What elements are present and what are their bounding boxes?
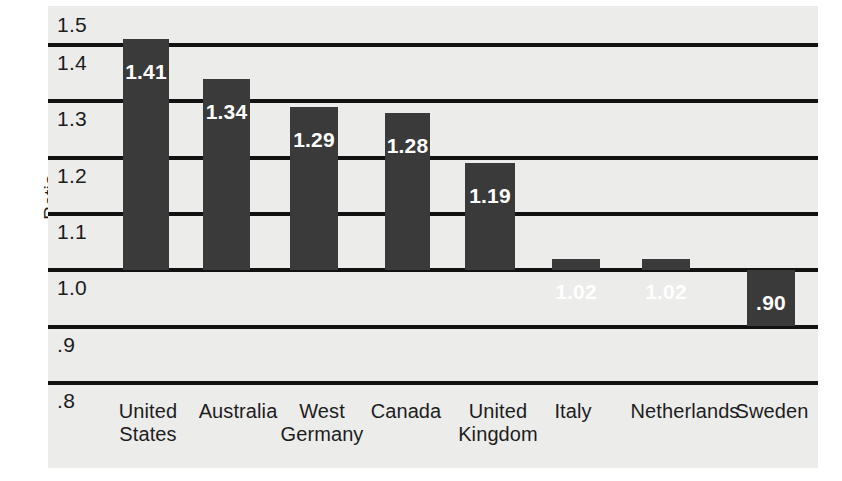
y-tick-label: 1.1 xyxy=(57,221,87,242)
bar-italy xyxy=(552,259,600,270)
bar-value-label: 1.29 xyxy=(290,129,338,150)
y-tick-label: .9 xyxy=(57,334,75,355)
category-label-italy: Italy xyxy=(538,400,608,423)
bar-value-label: 1.19 xyxy=(465,185,515,206)
y-tick-label: 1.5 xyxy=(57,14,87,35)
y-tick-label: 1.4 xyxy=(57,52,87,73)
y-tick-label: .8 xyxy=(57,390,75,411)
bar-value-label: 1.02 xyxy=(552,281,600,302)
category-label-sweden: Sweden xyxy=(726,400,818,423)
bar-value-label: 1.41 xyxy=(123,61,169,82)
y-tick-label: 1.3 xyxy=(57,108,87,129)
gridline-.9 xyxy=(48,325,818,329)
category-label-united-kingdom: United Kingdom xyxy=(448,400,548,446)
category-label-canada: Canada xyxy=(358,400,454,423)
bar-value-label: 1.02 xyxy=(642,281,690,302)
y-tick-label: 1.2 xyxy=(57,165,87,186)
bar-chart: Ratio 1.51.41.31.21.11.0.9.8 1.411.341.2… xyxy=(0,0,842,481)
bar-value-label: 1.34 xyxy=(203,101,250,122)
bar-value-label: .90 xyxy=(747,292,795,313)
bar-value-label: 1.28 xyxy=(385,135,430,156)
plot-area: 1.51.41.31.21.11.0.9.8 1.411.341.291.281… xyxy=(48,6,818,468)
category-label-west-germany: West Germany xyxy=(272,400,372,446)
bar-netherlands xyxy=(642,259,690,270)
category-label-united-states: United States xyxy=(100,400,196,446)
y-tick-label: 1.0 xyxy=(57,277,87,298)
gridline-.8 xyxy=(48,381,818,385)
bar-united-kingdom xyxy=(465,163,515,270)
